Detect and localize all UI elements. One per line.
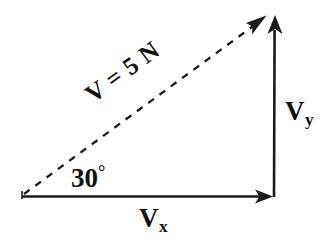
vy-label: Vy — [285, 98, 314, 128]
vector-vx — [22, 190, 273, 204]
angle-value: 30 — [71, 163, 98, 193]
vector-vy — [268, 15, 283, 197]
resultant-arrowhead — [246, 16, 267, 35]
vx-subscript: x — [159, 217, 168, 236]
angle-label: 30° — [71, 163, 105, 192]
degree-symbol: ° — [98, 162, 105, 182]
vx-label: Vx — [139, 205, 168, 235]
vy-base: V — [285, 96, 305, 126]
vy-shaft — [274, 30, 275, 197]
vx-base: V — [139, 203, 159, 233]
vy-subscript: y — [305, 110, 314, 129]
